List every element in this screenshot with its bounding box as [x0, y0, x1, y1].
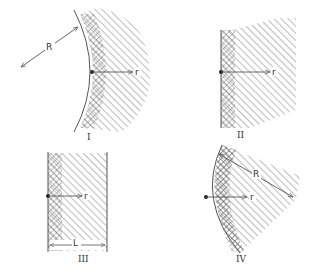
r-label: r	[84, 191, 88, 201]
cross-hatch-layer	[221, 30, 235, 128]
panel-III: r L III	[46, 152, 107, 264]
r-label: r	[135, 67, 139, 77]
panel-label-I: I	[87, 132, 91, 142]
panel-label-III: III	[78, 254, 89, 264]
panel-IV: R r IV	[204, 145, 300, 264]
diagram-canvas: R r I r II r	[0, 0, 318, 275]
panel-label-IV: IV	[236, 254, 247, 264]
panel-label-II: II	[237, 130, 245, 140]
panel-I: R r I	[21, 8, 150, 142]
thickness-label: L	[73, 238, 78, 248]
r-label: r	[272, 67, 276, 77]
radius-label: R	[253, 169, 259, 179]
r-label: r	[250, 192, 254, 202]
panel-II: r II	[219, 18, 296, 140]
radius-label: R	[46, 42, 52, 52]
cross-hatch-layer	[48, 153, 62, 251]
